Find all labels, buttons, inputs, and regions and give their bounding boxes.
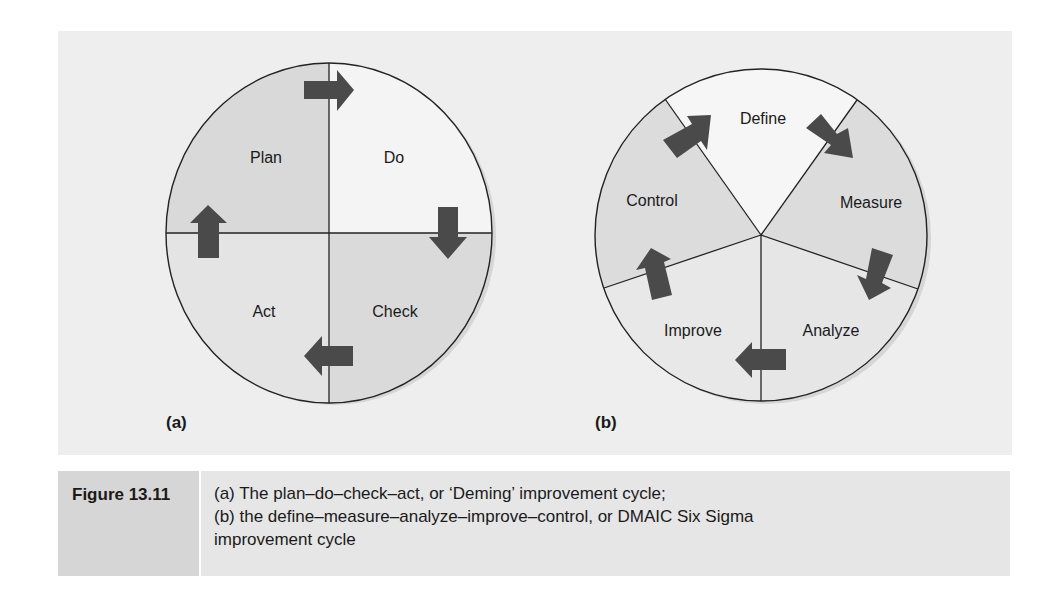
figure-caption: Figure 13.11 (a) The plan–do–check–act, … (58, 471, 1010, 576)
dmaic-cycle: Define Measure Analyze Improve Control (595, 69, 931, 404)
pdca-cycle: Plan Do Check Act (166, 63, 496, 405)
label-do: Do (384, 149, 405, 166)
label-check: Check (372, 303, 418, 320)
caption-line: improvement cycle (214, 528, 1010, 551)
caption-figure-number: Figure 13.11 (58, 471, 199, 576)
label-control: Control (626, 192, 678, 209)
label-act: Act (252, 303, 276, 320)
subfigure-label-a: (a) (166, 413, 187, 433)
caption-line: (a) The plan–do–check–act, or ‘Deming’ i… (214, 482, 1010, 505)
caption-line: (b) the define–measure–analyze–improve–c… (214, 505, 1010, 528)
label-define: Define (740, 110, 786, 127)
label-improve: Improve (664, 322, 722, 339)
segment-act (166, 233, 329, 403)
caption-text: (a) The plan–do–check–act, or ‘Deming’ i… (201, 471, 1010, 576)
label-analyze: Analyze (803, 322, 860, 339)
label-plan: Plan (250, 149, 282, 166)
subfigure-label-b: (b) (595, 413, 617, 433)
label-measure: Measure (840, 194, 902, 211)
segment-do (329, 63, 492, 233)
